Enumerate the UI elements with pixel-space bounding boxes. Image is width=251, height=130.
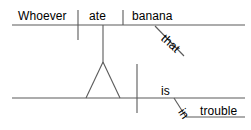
label-is: is (161, 85, 170, 97)
pedestal-left-leg (86, 62, 103, 98)
label-banana: banana (132, 10, 173, 22)
label-whoever: Whoever (18, 10, 67, 22)
sentence-diagram: Whoever ate banana that is in trouble (0, 0, 251, 130)
pedestal-right-leg (103, 62, 120, 98)
label-trouble: trouble (200, 105, 237, 117)
label-ate: ate (89, 10, 106, 22)
